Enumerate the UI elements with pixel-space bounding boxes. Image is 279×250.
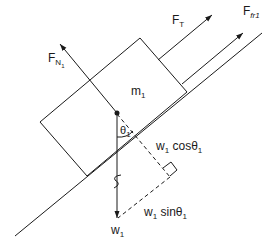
- weight-sin-label: w1 sinθ1: [144, 206, 187, 221]
- weight-label: w1: [111, 224, 124, 239]
- normal-force-arrow: [60, 44, 117, 113]
- tension-force-label: FT: [172, 14, 184, 29]
- friction-force-label: Ffr1: [243, 5, 260, 20]
- block-label: m1: [131, 85, 145, 100]
- right-angle-marker: [163, 162, 177, 176]
- friction-force-arrow: [182, 33, 243, 84]
- angle-label: θ1: [120, 125, 131, 139]
- free-body-diagram: FN1 FT Ffr1 m1 θ1 w1 cosθ1 w1 sinθ1 w1: [0, 0, 279, 250]
- weight-cos-label: w1 cosθ1: [156, 140, 202, 155]
- center-of-mass-dot: [115, 111, 120, 116]
- normal-force-label: FN1: [48, 52, 64, 69]
- diagram-drawing: [0, 0, 279, 250]
- tension-force-arrow: [158, 15, 212, 60]
